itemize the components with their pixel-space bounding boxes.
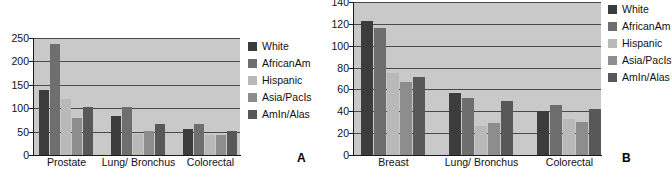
bar [475, 126, 487, 156]
bars-container-a [33, 38, 240, 155]
bar-group [361, 2, 426, 155]
legend-item: AfricanAm [248, 56, 312, 70]
bar [537, 111, 549, 155]
y-tick-label: 150 [3, 80, 29, 90]
panel-label-b: B [622, 151, 631, 165]
legend-label: White [262, 41, 289, 52]
legend-item: Hispanic [248, 73, 312, 87]
legend-item: Hispanic [608, 36, 672, 50]
legend-item: White [608, 2, 672, 16]
legend-label: Hispanic [262, 75, 302, 86]
legend-swatch-icon [608, 22, 617, 31]
bar [83, 107, 93, 155]
y-tick [29, 38, 33, 39]
bar [400, 82, 412, 155]
y-tick [29, 132, 33, 133]
legend-swatch-icon [248, 59, 257, 68]
y-tick-label: 140 [327, 0, 349, 7]
legend-item: Asia/PacIs [248, 90, 312, 104]
legend-label: AmIn/Alas [262, 109, 310, 120]
y-tick-label: 40 [327, 106, 349, 116]
y-axis-line [33, 38, 34, 156]
legend-swatch-icon [248, 42, 257, 51]
bar [155, 124, 165, 155]
bar [550, 105, 562, 155]
y-tick [349, 111, 353, 112]
y-tick-label: 100 [3, 103, 29, 113]
y-tick-label: 50 [3, 127, 29, 137]
legend-b: WhiteAfricanAmHispanicAsia/PacIsAmIn/Ala… [608, 2, 672, 87]
legend-label: AmIn/Alas [622, 72, 670, 83]
y-tick [349, 68, 353, 69]
bar-group [39, 38, 94, 155]
chart-panel-b: 020406080100120140BreastLung/ BronchusCo… [325, 0, 650, 180]
bar [488, 123, 500, 155]
bar [72, 118, 82, 155]
y-tick [349, 24, 353, 25]
bars-container-b [353, 2, 601, 155]
y-tick-label: 250 [3, 33, 29, 43]
legend-swatch-icon [608, 73, 617, 82]
legend-label: AfricanAm [262, 58, 310, 69]
legend-label: Asia/PacIs [262, 92, 312, 103]
bar [227, 131, 237, 155]
bar [39, 90, 49, 155]
y-tick [29, 108, 33, 109]
y-tick [29, 61, 33, 62]
bar [61, 99, 71, 155]
legend-swatch-icon [248, 76, 257, 85]
x-tick-label: Breast [344, 157, 444, 168]
y-tick [349, 89, 353, 90]
y-tick-label: 100 [327, 41, 349, 51]
bar [194, 124, 204, 155]
legend-swatch-icon [608, 56, 617, 65]
y-tick [349, 155, 353, 156]
legend-item: AmIn/Alas [608, 70, 672, 84]
y-tick-label: 20 [327, 128, 349, 138]
plot-area-a [33, 38, 240, 155]
legend-label: Hispanic [622, 38, 662, 49]
legend-label: Asia/PacIs [622, 55, 672, 66]
legend-label: AfricanAm [622, 21, 670, 32]
bar [387, 73, 399, 155]
y-tick [349, 2, 353, 3]
legend-swatch-icon [608, 39, 617, 48]
bar [589, 109, 601, 155]
bar [111, 116, 121, 155]
y-tick [349, 46, 353, 47]
legend-item: White [248, 39, 312, 53]
bar [50, 44, 60, 155]
x-tick-label: Colorectal [161, 157, 261, 168]
bar [216, 135, 226, 155]
x-tick-label: Colorectal [520, 157, 620, 168]
legend-label: White [622, 4, 649, 15]
legend-a: WhiteAfricanAmHispanicAsia/PacIsAmIn/Ala… [248, 39, 312, 124]
bar [374, 28, 386, 155]
legend-item: AmIn/Alas [248, 107, 312, 121]
legend-item: Asia/PacIs [608, 53, 672, 67]
bar [183, 129, 193, 155]
legend-item: AfricanAm [608, 19, 672, 33]
legend-swatch-icon [248, 93, 257, 102]
bar [144, 131, 154, 155]
y-tick [349, 133, 353, 134]
bar [413, 77, 425, 155]
legend-swatch-icon [608, 5, 617, 14]
y-tick [29, 155, 33, 156]
y-tick-label: 60 [327, 84, 349, 94]
bar [133, 134, 143, 155]
y-tick-label: 200 [3, 56, 29, 66]
bar-group [449, 2, 514, 155]
x-tick-label: Lung/ Bronchus [432, 157, 532, 168]
bar-group [537, 2, 602, 155]
legend-swatch-icon [248, 110, 257, 119]
bar-group [111, 38, 166, 155]
bar [563, 119, 575, 155]
y-tick-label: 120 [327, 19, 349, 29]
bar [122, 107, 132, 155]
bar [205, 135, 215, 155]
bar [449, 93, 461, 155]
y-axis-line [353, 2, 354, 156]
bar-group [183, 38, 238, 155]
